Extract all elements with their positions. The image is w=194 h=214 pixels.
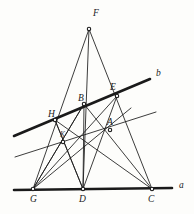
point-F — [87, 27, 90, 30]
D-E — [83, 96, 117, 189]
labels-layer: abFBEHAKGDC — [30, 8, 184, 204]
label-a: a — [179, 180, 184, 190]
label-G: G — [30, 194, 37, 204]
label-B: B — [78, 93, 84, 103]
label-F: F — [92, 8, 99, 18]
label-K: K — [59, 130, 66, 139]
point-C — [150, 187, 153, 190]
label-C: C — [148, 194, 155, 204]
label-D: D — [78, 194, 86, 204]
line-a-baseline — [14, 188, 172, 190]
point-D — [81, 187, 84, 190]
point-E — [115, 94, 118, 97]
label-b: b — [156, 68, 161, 78]
geometry-figure: abFBEHAKGDC — [0, 0, 194, 214]
label-H: H — [47, 109, 56, 119]
F-C — [89, 29, 152, 189]
geometry-diagram-canvas: abFBEHAKGDC — [0, 0, 194, 214]
point-G — [31, 187, 34, 190]
label-A: A — [106, 117, 113, 127]
G-A-extended — [33, 108, 131, 189]
label-E: E — [109, 82, 116, 92]
lines-layer — [14, 29, 172, 190]
point-A — [108, 128, 111, 131]
point-K — [61, 140, 64, 143]
